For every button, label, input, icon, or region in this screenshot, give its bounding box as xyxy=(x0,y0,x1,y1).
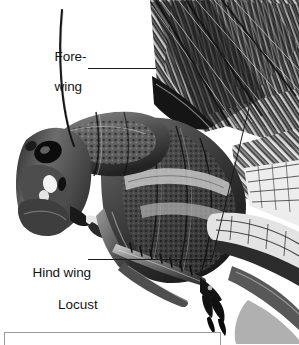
hind-wing-label-text: Hind wing xyxy=(33,265,91,280)
caption-panel-top-edge xyxy=(4,332,221,345)
forewing-leader-line xyxy=(88,68,156,69)
forewing-label: Fore- wing xyxy=(40,34,86,109)
hind-wing-leader-line xyxy=(88,259,212,260)
figure-caption: Locust xyxy=(58,297,98,312)
hind-wing-label: Hind wing xyxy=(18,250,91,295)
forewing-label-line2: wing xyxy=(55,79,82,94)
forewing-label-line1: Fore- xyxy=(55,49,87,64)
